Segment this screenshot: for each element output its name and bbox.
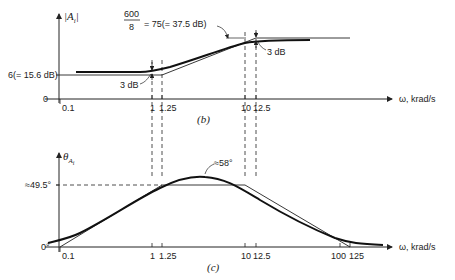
b-ytick-0: 0 — [43, 94, 48, 104]
c-actual-curve — [48, 177, 383, 245]
b-xtick-1.25: 1.25 — [159, 103, 177, 113]
b-frac-den: 8 — [129, 22, 134, 32]
b-eq-annotation: = 75(= 37.5 dB) — [144, 19, 207, 29]
c-y-label: θAi — [63, 150, 75, 166]
b-3db-left: 3 dB — [120, 80, 139, 90]
b-3db-right: 3 dB — [267, 47, 286, 57]
b-xtick-10: 10 — [241, 103, 251, 113]
c-xtick-10: 10 — [241, 251, 251, 261]
bode-plots: |Ai| 6(= 15.6 dB) 0 600 8 = 75(= 37.5 dB… — [0, 0, 455, 280]
c-peak-annotation: ≈58° — [214, 158, 233, 168]
c-x-label: ω, krad/s — [399, 242, 436, 252]
c-xtick-100: 100 — [331, 251, 346, 261]
b-ytick-6: 6(= 15.6 dB) — [8, 70, 58, 80]
c-asymptote-line — [60, 185, 350, 247]
b-xtick-1: 1 — [150, 103, 155, 113]
b-xtick-12.5: 12.5 — [253, 103, 271, 113]
c-xtick-1: 1 — [150, 251, 155, 261]
b-xtick-0.1: 0.1 — [62, 103, 75, 113]
c-ytick-0: 0° — [41, 242, 50, 252]
c-xtick-125: 125 — [349, 251, 364, 261]
b-frac-num: 600 — [124, 9, 139, 19]
magnitude-plot: |Ai| 6(= 15.6 dB) 0 600 8 = 75(= 37.5 dB… — [8, 9, 436, 178]
c-panel-label: (c) — [207, 261, 220, 274]
c-xtick-12.5: 12.5 — [253, 251, 271, 261]
b-x-label: ω, krad/s — [399, 94, 436, 104]
c-xtick-0.1: 0.1 — [62, 251, 75, 261]
phase-plot: θAi ≈49.5° 0° ≈58° 0.1 1 1.25 10 12.5 10… — [25, 150, 436, 274]
c-xtick-1.25: 1.25 — [159, 251, 177, 261]
b-panel-label: (b) — [197, 113, 210, 126]
b-y-label: |Ai| — [64, 10, 79, 25]
c-ytick-49.5: ≈49.5° — [25, 180, 51, 190]
